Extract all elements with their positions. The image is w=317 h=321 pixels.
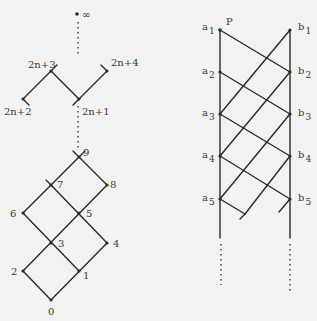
left-lattice: ∞ 2n+3 2n+4 2n+2 2n+1 [4, 9, 139, 317]
edge-stub [240, 214, 245, 219]
label-b4: b4 [298, 149, 311, 164]
node-2n+1 [77, 97, 80, 100]
edge [220, 156, 290, 199]
label-3: 3 [58, 238, 64, 249]
node-2 [21, 269, 24, 272]
label-a5: a5 [202, 192, 215, 207]
node-1 [77, 269, 80, 272]
node-5 [77, 211, 80, 214]
node-6 [21, 211, 24, 214]
label-4: 4 [113, 238, 119, 249]
label-p: P [226, 16, 233, 27]
edge [245, 156, 290, 214]
label-a4: a4 [202, 149, 215, 164]
node-a3 [218, 112, 221, 115]
node-a1 [218, 28, 222, 32]
lattice-diagrams: ∞ 2n+3 2n+4 2n+2 2n+1 [0, 0, 317, 321]
label-6: 6 [10, 208, 16, 219]
label-1: 1 [83, 270, 89, 281]
edge [220, 114, 290, 156]
label-5: 5 [86, 208, 92, 219]
label-b3: b3 [298, 107, 311, 122]
label-8: 8 [110, 179, 116, 190]
edge [23, 271, 51, 300]
label-2: 2 [11, 266, 17, 277]
edge-stub [220, 199, 245, 214]
label-a3: a3 [202, 107, 215, 122]
label-b5: b5 [298, 192, 311, 207]
node-3 [49, 241, 52, 244]
node-0 [49, 298, 52, 301]
edge [220, 72, 290, 156]
edge [23, 185, 107, 271]
node-a4 [218, 154, 221, 157]
label-2n+2: 2n+2 [4, 106, 32, 117]
label-a1: a1 [202, 21, 215, 36]
edge [220, 30, 290, 72]
node-b1 [288, 28, 291, 31]
edge [79, 157, 107, 185]
node-a2 [218, 70, 221, 73]
node-8 [105, 183, 108, 186]
label-2n+1: 2n+1 [82, 106, 110, 117]
node-b5 [288, 197, 291, 200]
label-b1: b1 [298, 21, 311, 36]
edge [220, 30, 290, 114]
node-2n+2 [21, 97, 24, 100]
edge [220, 72, 290, 114]
label-2n+3: 2n+3 [28, 59, 56, 70]
node-infinity [75, 12, 79, 16]
label-a2: a2 [202, 65, 215, 80]
label-b2: b2 [298, 65, 311, 80]
node-4 [105, 241, 108, 244]
label-2n+4: 2n+4 [111, 57, 139, 68]
label-7: 7 [57, 179, 63, 190]
edges-2n-zigzag [23, 71, 107, 99]
node-2n+4 [105, 69, 108, 72]
node-7 [49, 183, 52, 186]
node-a5 [218, 197, 221, 200]
label-infinity: ∞ [82, 9, 90, 20]
node-b4 [288, 154, 291, 157]
label-0: 0 [48, 306, 54, 317]
edge [220, 114, 290, 199]
node-9 [77, 155, 80, 158]
right-lattice: P a1 a2 a3 a4 a5 b1 b2 b3 b4 b5 [202, 16, 311, 292]
node-b3 [288, 112, 291, 115]
node-b2 [288, 70, 291, 73]
label-9: 9 [83, 147, 89, 158]
edge-stub [279, 199, 290, 212]
